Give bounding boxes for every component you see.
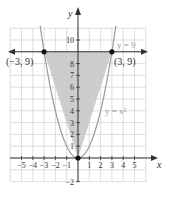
point-label-right: (3, 9) xyxy=(114,56,136,68)
y-tick-label: 3 xyxy=(70,119,74,128)
x-tick-label: 5 xyxy=(133,161,137,170)
x-tick-label: −5 xyxy=(17,161,26,170)
x-axis-label: x xyxy=(156,159,162,170)
y-tick-label: 10 xyxy=(66,36,74,45)
x-tick-label: 4 xyxy=(121,161,125,170)
point-label-left: (−3, 9) xyxy=(6,56,33,68)
y-tick-label: 8 xyxy=(70,60,74,69)
y-tick-label: 2 xyxy=(70,130,74,139)
x-tick-label: −3 xyxy=(40,161,49,170)
curve-label-y-equals-x-squared: y = x² xyxy=(105,106,127,116)
point-marker xyxy=(75,155,80,160)
x-tick-label: −1 xyxy=(62,161,71,170)
x-tick-label: 1 xyxy=(87,161,91,170)
y-tick-label: 5 xyxy=(70,95,74,104)
graph: −5−4−3−2−112345−21234567810 xyy = 9y = x… xyxy=(0,0,171,199)
line-right-arrow-icon xyxy=(141,49,148,55)
line-left-arrow-icon xyxy=(8,49,15,55)
y-axis-label: y xyxy=(67,8,73,19)
x-tick-label: 2 xyxy=(99,161,103,170)
point-marker xyxy=(42,49,47,54)
y-tick-label: 1 xyxy=(70,142,74,151)
point-marker xyxy=(109,49,114,54)
line-label-y-equals-9: y = 9 xyxy=(117,40,136,50)
y-tick-label: −2 xyxy=(65,178,74,187)
y-axis-arrow-icon xyxy=(75,7,81,15)
x-tick-label: −2 xyxy=(51,161,60,170)
y-tick-label: 7 xyxy=(70,71,74,80)
y-tick-label: 4 xyxy=(70,107,74,116)
y-tick-label: 6 xyxy=(70,83,74,92)
x-tick-label: −4 xyxy=(29,161,38,170)
x-tick-label: 3 xyxy=(110,161,114,170)
